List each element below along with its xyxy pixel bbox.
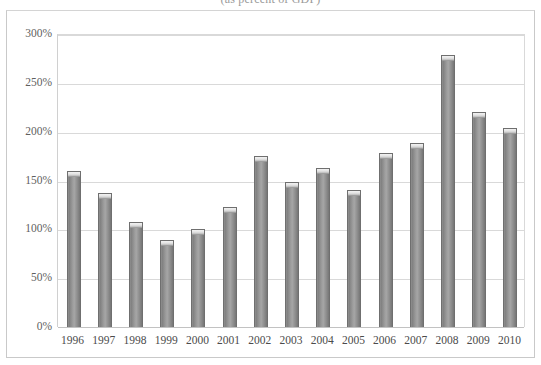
y-axis-tick-label: 250%	[2, 77, 52, 88]
x-axis-tick-label: 1996	[57, 333, 88, 347]
bar-cap	[68, 172, 80, 177]
bar-slot	[370, 35, 401, 327]
bar-cap	[192, 230, 204, 235]
bar-cap	[442, 56, 454, 61]
y-axis-tick-label: 300%	[2, 28, 52, 39]
bar-slot	[245, 35, 276, 327]
bar-cap	[504, 129, 516, 134]
bar-series	[58, 35, 524, 327]
bar-cap	[224, 208, 236, 213]
x-axis-tick-label: 2008	[431, 333, 462, 347]
bar-1999[interactable]	[160, 240, 174, 327]
bar-cap	[380, 154, 392, 159]
x-axis-tick-label: 2000	[182, 333, 213, 347]
gridline-0	[58, 327, 524, 328]
y-axis-tick-label: 100%	[2, 223, 52, 234]
bar-2007[interactable]	[410, 143, 424, 327]
bar-2006[interactable]	[379, 153, 393, 327]
bar-slot	[276, 35, 307, 327]
bar-cap	[411, 144, 423, 149]
y-axis-tick-label: 200%	[2, 126, 52, 137]
bar-cap	[99, 194, 111, 199]
x-axis-tick-label: 1997	[88, 333, 119, 347]
bar-2000[interactable]	[191, 229, 205, 327]
bar-slot	[464, 35, 495, 327]
bar-2003[interactable]	[285, 182, 299, 327]
bar-slot	[120, 35, 151, 327]
x-axis-tick-label: 2003	[275, 333, 306, 347]
chart-title: (as percent of GDP)	[0, 0, 541, 5]
bar-1998[interactable]	[129, 222, 143, 327]
x-axis-tick-label: 2007	[400, 333, 431, 347]
bar-slot	[183, 35, 214, 327]
bar-cap	[348, 191, 360, 196]
bar-2008[interactable]	[441, 55, 455, 327]
bar-slot	[495, 35, 526, 327]
bar-cap	[317, 169, 329, 174]
bar-cap	[130, 223, 142, 228]
y-axis-tick-label: 150%	[2, 175, 52, 186]
y-axis: 0%50%100%150%200%250%300%	[0, 34, 52, 328]
x-axis-tick-label: 2006	[369, 333, 400, 347]
bar-slot	[89, 35, 120, 327]
bar-slot	[58, 35, 89, 327]
bar-1997[interactable]	[98, 193, 112, 327]
x-axis-tick-label: 2010	[494, 333, 525, 347]
bar-slot	[401, 35, 432, 327]
bar-cap	[161, 241, 173, 246]
bar-slot	[308, 35, 339, 327]
y-axis-tick-label: 50%	[2, 272, 52, 283]
x-axis-tick-label: 2009	[463, 333, 494, 347]
bar-2010[interactable]	[503, 128, 517, 327]
x-axis-tick-label: 2004	[307, 333, 338, 347]
chart-title-clipped: (as percent of GDP)	[0, 0, 541, 10]
bar-cap	[255, 157, 267, 162]
bar-1996[interactable]	[67, 171, 81, 327]
bar-2002[interactable]	[254, 156, 268, 327]
bar-2001[interactable]	[223, 207, 237, 327]
x-axis-tick-label: 2001	[213, 333, 244, 347]
x-axis-tick-label: 2002	[244, 333, 275, 347]
plot-area	[57, 34, 525, 327]
x-axis-tick-label: 2005	[338, 333, 369, 347]
y-axis-tick-label: 0%	[2, 321, 52, 332]
x-axis: 1996199719981999200020012002200320042005…	[57, 333, 525, 353]
x-axis-tick-label: 1998	[119, 333, 150, 347]
bar-2009[interactable]	[472, 112, 486, 327]
bar-slot	[339, 35, 370, 327]
bar-slot	[152, 35, 183, 327]
bar-cap	[286, 183, 298, 188]
bar-2005[interactable]	[347, 190, 361, 327]
bar-slot	[214, 35, 245, 327]
x-axis-tick-label: 1999	[151, 333, 182, 347]
chart-figure: (as percent of GDP) 0%50%100%150%200%250…	[0, 0, 541, 365]
bar-2004[interactable]	[316, 168, 330, 327]
bar-slot	[432, 35, 463, 327]
bar-cap	[473, 113, 485, 118]
